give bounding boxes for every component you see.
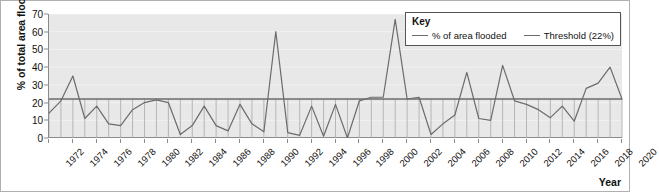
legend-entries: % of area flooded Threshold (22%) [412, 30, 614, 41]
x-tick-label: 2012 [541, 146, 564, 169]
legend-item-flooded: % of area flooded [412, 30, 506, 41]
x-tick-label: 2002 [421, 146, 444, 169]
x-tick-mark [406, 139, 407, 143]
x-tick-label: 1990 [278, 146, 301, 169]
line-swatch-icon [524, 35, 540, 36]
y-axis-tick-labels: 010203040506070 [21, 1, 43, 193]
x-tick-label: 2006 [469, 146, 492, 169]
x-tick-label: 2004 [445, 146, 468, 169]
x-tick-label: 1980 [159, 146, 182, 169]
x-tick-mark [167, 139, 168, 143]
x-tick-mark [311, 139, 312, 143]
x-tick-mark [526, 139, 527, 143]
x-tick-mark [215, 139, 216, 143]
x-tick-label: 1974 [87, 146, 110, 169]
x-tick-label: 2008 [493, 146, 516, 169]
x-tick-mark [382, 139, 383, 143]
x-tick-mark [239, 139, 240, 143]
x-tick-mark [120, 139, 121, 143]
y-tick-label: 50 [32, 44, 43, 55]
x-tick-label: 2016 [588, 146, 611, 169]
x-tick-mark [287, 139, 288, 143]
x-tick-mark [502, 139, 503, 143]
y-tick-label: 70 [32, 9, 43, 20]
x-tick-label: 1986 [230, 146, 253, 169]
x-tick-mark [430, 139, 431, 143]
x-tick-label: 1988 [254, 146, 277, 169]
x-tick-label: 1984 [206, 146, 229, 169]
x-tick-mark [621, 139, 622, 143]
x-tick-mark [478, 139, 479, 143]
x-tick-label: 2010 [517, 146, 540, 169]
y-tick-label: 30 [32, 79, 43, 90]
x-tick-mark [335, 139, 336, 143]
x-axis-title: Year [599, 176, 621, 188]
y-tick-label: 20 [32, 97, 43, 108]
x-tick-mark [96, 139, 97, 143]
y-tick-label: 40 [32, 62, 43, 73]
x-tick-mark [573, 139, 574, 143]
legend-label-flooded: % of area flooded [432, 30, 506, 41]
x-tick-mark [48, 139, 49, 143]
x-tick-mark [263, 139, 264, 143]
legend-item-threshold: Threshold (22%) [524, 30, 614, 41]
x-tick-label: 1978 [135, 146, 158, 169]
x-tick-label: 1976 [111, 146, 134, 169]
x-tick-mark [454, 139, 455, 143]
x-tick-mark [72, 139, 73, 143]
chart-legend: Key % of area flooded Threshold (22%) [405, 12, 621, 46]
legend-title: Key [412, 16, 614, 27]
x-tick-label: 2020 [636, 146, 659, 169]
y-tick-label: 0 [37, 133, 43, 144]
x-tick-label: 2000 [397, 146, 420, 169]
x-tick-mark [549, 139, 550, 143]
x-axis-tick-labels: 1972197419761978198019821984198619881990… [48, 140, 622, 180]
y-tick-label: 60 [32, 26, 43, 37]
legend-label-threshold: Threshold (22%) [544, 30, 614, 41]
y-tick-label: 10 [32, 115, 43, 126]
x-tick-mark [358, 139, 359, 143]
x-tick-label: 1982 [183, 146, 206, 169]
x-tick-label: 1998 [374, 146, 397, 169]
x-tick-label: 2018 [612, 146, 635, 169]
x-tick-mark [597, 139, 598, 143]
x-tick-label: 1972 [63, 146, 86, 169]
x-tick-mark [144, 139, 145, 143]
x-tick-label: 2014 [565, 146, 588, 169]
x-tick-mark [191, 139, 192, 143]
x-tick-label: 1992 [302, 146, 325, 169]
line-swatch-icon [412, 35, 428, 36]
x-tick-label: 1994 [326, 146, 349, 169]
x-tick-label: 1996 [350, 146, 373, 169]
